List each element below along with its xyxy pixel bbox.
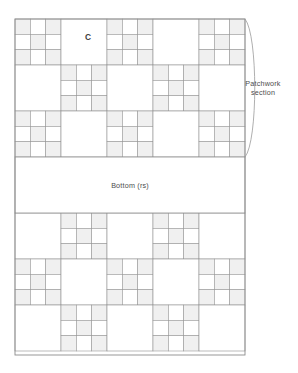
nine-patch-block [153,213,199,259]
nine-patch-block [15,19,61,65]
patch-square-shaded [122,274,137,289]
nine-patch-block [153,65,199,111]
patch-square-plain [199,274,214,289]
patch-square-plain [214,290,229,305]
nine-patch-block [61,305,107,351]
patch-square-shaded [138,290,153,305]
plain-block [15,305,61,351]
patch-square-shaded [153,213,168,228]
patch-square-plain [30,259,45,274]
patch-square-plain [199,126,214,141]
plain-block [199,305,245,351]
patch-square-shaded [138,19,153,34]
patch-square-shaded [122,34,137,49]
patch-square-plain [199,34,214,49]
patch-square-shaded [46,50,61,65]
patch-square-shaded [107,142,122,157]
patch-square-plain [76,305,91,320]
plain-block [15,213,61,259]
patch-square-plain [122,259,137,274]
plain-block [199,65,245,111]
patch-square-shaded [107,111,122,126]
patch-square-plain [122,142,137,157]
patch-square-shaded [92,65,107,80]
patch-square-plain [76,213,91,228]
patch-square-plain [46,34,61,49]
patch-square-plain [168,244,183,259]
patch-square-shaded [230,50,245,65]
patch-square-shaded [230,111,245,126]
patch-square-shaded [184,244,199,259]
patch-square-plain [230,274,245,289]
patch-square-shaded [61,213,76,228]
patch-square-plain [138,274,153,289]
patch-square-shaded [199,50,214,65]
plain-block [199,213,245,259]
patch-square-shaded [199,111,214,126]
patch-square-shaded [46,19,61,34]
patch-square-plain [30,290,45,305]
patch-square-plain [168,65,183,80]
patch-square-plain [76,96,91,111]
nine-patch-block [107,19,153,65]
plain-block [107,305,153,351]
patch-square-plain [107,126,122,141]
patch-square-plain [92,80,107,95]
patch-square-plain [122,50,137,65]
patch-square-shaded [153,244,168,259]
patch-square-shaded [92,213,107,228]
patchwork-section-label-line2: section [251,88,275,97]
nine-patch-block [199,259,245,305]
patch-square-shaded [30,126,45,141]
patch-square-plain [30,142,45,157]
patch-square-shaded [138,50,153,65]
patch-square-shaded [30,34,45,49]
patch-square-shaded [168,228,183,243]
nine-patch-block [107,111,153,157]
patch-square-shaded [230,142,245,157]
nine-patch-block [15,111,61,157]
patch-square-shaded [214,34,229,49]
plain-block [15,65,61,111]
patch-square-shaded [199,142,214,157]
patch-square-shaded [107,50,122,65]
plain-block [61,19,107,65]
patch-square-plain [168,336,183,351]
patch-square-plain [30,111,45,126]
patch-square-shaded [61,336,76,351]
patch-square-shaded [92,244,107,259]
patch-square-shaded [15,142,30,157]
patch-square-plain [153,80,168,95]
patch-square-shaded [92,336,107,351]
nine-patch-block [199,111,245,157]
patch-square-plain [230,34,245,49]
plain-block [107,213,153,259]
patch-square-plain [122,19,137,34]
plain-block [61,259,107,305]
plain-block [153,19,199,65]
patch-square-plain [138,34,153,49]
nine-patch-block [61,65,107,111]
patch-square-plain [46,274,61,289]
nine-patch-block [61,213,107,259]
patch-square-shaded [76,80,91,95]
patch-square-shaded [138,111,153,126]
patch-square-plain [15,34,30,49]
patch-square-plain [230,126,245,141]
patch-square-shaded [107,19,122,34]
patch-square-shaded [15,50,30,65]
patch-square-shaded [92,305,107,320]
plain-block [107,65,153,111]
patch-square-plain [92,228,107,243]
patch-square-plain [76,244,91,259]
patch-square-shaded [199,290,214,305]
patch-square-shaded [184,213,199,228]
patch-square-shaded [30,274,45,289]
patch-square-plain [107,274,122,289]
patch-square-plain [153,320,168,335]
patch-square-shaded [199,19,214,34]
patch-square-plain [214,111,229,126]
patch-square-plain [122,290,137,305]
patch-square-shaded [230,19,245,34]
patch-square-plain [184,80,199,95]
